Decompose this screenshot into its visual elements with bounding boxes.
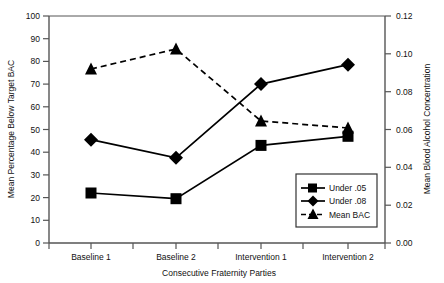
mean-bac-line xyxy=(91,49,348,128)
line-chart: 100 90 80 70 60 50 40 30 20 10 0 0.12 0.… xyxy=(0,0,444,283)
x-axis-ticks xyxy=(49,243,385,249)
y2-tick-label: 0.10 xyxy=(396,49,413,59)
square-marker xyxy=(171,193,182,204)
y2-tick-label: 0.08 xyxy=(396,87,413,97)
y-axis-right-tick-labels: 0.12 0.10 0.08 0.06 0.04 0.02 0.00 xyxy=(396,11,413,248)
y-axis-left-ticks xyxy=(43,16,49,243)
y-axis-title: Mean Percentage Below Target BAC xyxy=(6,60,16,198)
y-tick-label: 30 xyxy=(31,170,41,180)
square-marker xyxy=(86,188,97,199)
y2-tick-label: 0.06 xyxy=(396,125,413,135)
diamond-marker xyxy=(84,133,98,147)
x-category-label: Intervention 2 xyxy=(322,252,374,262)
legend-item-under-05[interactable]: Under .05 xyxy=(301,183,367,193)
legend-label: Under .08 xyxy=(329,196,367,206)
legend-label: Mean BAC xyxy=(329,210,370,220)
x-category-label: Baseline 1 xyxy=(71,252,111,262)
y-axis-right-ticks xyxy=(385,16,391,243)
under-08-line xyxy=(91,65,348,158)
y-tick-label: 60 xyxy=(31,102,41,112)
y-axis-left-tick-labels: 100 90 80 70 60 50 40 30 20 10 0 xyxy=(26,11,40,248)
square-marker xyxy=(256,140,267,151)
y2-tick-label: 0.00 xyxy=(396,238,413,248)
y-tick-label: 20 xyxy=(31,193,41,203)
chart-legend: Under .05 Under .08 Mean BAC xyxy=(296,174,377,227)
square-marker xyxy=(343,131,354,142)
x-category-label: Baseline 2 xyxy=(156,252,196,262)
y-tick-label: 10 xyxy=(31,215,41,225)
square-marker-icon xyxy=(308,184,317,193)
legend-label: Under .05 xyxy=(329,183,367,193)
y2-axis-title: Mean Blood Alcohol Concentration xyxy=(422,64,432,195)
y2-tick-label: 0.04 xyxy=(396,162,413,172)
y-tick-label: 40 xyxy=(31,147,41,157)
chart-figure: 100 90 80 70 60 50 40 30 20 10 0 0.12 0.… xyxy=(0,0,444,283)
y-tick-label: 90 xyxy=(31,34,41,44)
y-tick-label: 50 xyxy=(31,125,41,135)
x-axis-category-labels: Baseline 1 Baseline 2 Intervention 1 Int… xyxy=(71,252,374,262)
y-tick-label: 80 xyxy=(31,56,41,66)
x-category-label: Intervention 1 xyxy=(235,252,287,262)
series-under-08 xyxy=(84,58,355,165)
x-axis-title: Consecutive Fraternity Parties xyxy=(162,268,276,278)
triangle-marker xyxy=(170,43,182,55)
y-tick-label: 70 xyxy=(31,79,41,89)
y-tick-label: 0 xyxy=(35,238,40,248)
diamond-marker xyxy=(341,58,355,72)
y2-tick-label: 0.12 xyxy=(396,11,413,21)
y2-tick-label: 0.02 xyxy=(396,200,413,210)
y-tick-label: 100 xyxy=(26,11,40,21)
